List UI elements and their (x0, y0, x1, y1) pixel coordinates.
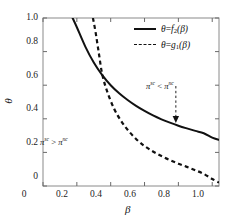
legend-label-f2: θ=f2(β) (161, 24, 188, 34)
region-label-lower-left: πsc > πnc (40, 136, 68, 147)
xtick-label-0.6: 0.6 (118, 189, 142, 199)
ytick-label-0.8: 0.8 (6, 36, 38, 46)
ytick-label-1.0: 1.0 (6, 12, 38, 22)
pi-right-sup-lower: nc (62, 136, 67, 142)
legend-item-g1: θ=g1(β) (134, 38, 218, 51)
xtick-label-0.2: 0.2 (50, 189, 74, 199)
legend-swatch-dashed-line-icon (134, 41, 156, 49)
legend-arg-g1: (β) (179, 40, 190, 50)
region-label-upper-right: πsc < πnc (146, 80, 174, 91)
pi-left-sup-lower: sc (44, 136, 49, 142)
legend-item-f2: θ=f2(β) (134, 22, 218, 35)
xtick-label-0.8: 0.8 (152, 189, 176, 199)
pi-right-sup-upper: nc (168, 80, 173, 86)
legend-swatch-solid-line-icon (134, 25, 156, 33)
xtick-label-0.4: 0.4 (84, 189, 108, 199)
chart-figure: 0 0.2 0.4 0.6 0.8 1.0 0 0.2 0.4 0.6 0.8 … (0, 0, 230, 224)
ytick-label-0.6: 0.6 (6, 70, 38, 80)
legend: θ=f2(β) θ=g1(β) (134, 22, 218, 51)
pi-left-sup-upper: sc (150, 80, 155, 86)
xtick-label-0: 0 (14, 189, 34, 199)
xtick-label-1.0: 1.0 (186, 189, 210, 199)
ytick-label-0.2: 0.2 (6, 137, 38, 147)
legend-arg-f2: (β) (177, 24, 188, 34)
ytick-label-0: 0 (6, 171, 38, 181)
legend-label-g1: θ=g1(β) (161, 40, 190, 50)
relation-lower: > (51, 137, 56, 147)
x-axis-title: β (125, 203, 130, 215)
y-axis-title: θ (2, 89, 14, 113)
relation-upper: < (157, 81, 162, 91)
